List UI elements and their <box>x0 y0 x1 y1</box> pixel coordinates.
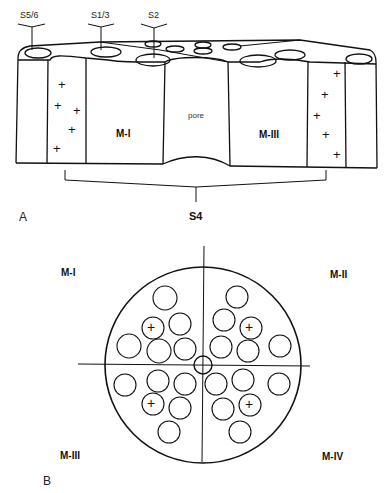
label-s2: S2 <box>148 11 159 20</box>
charge-plus: + <box>68 123 76 136</box>
charge-plus: + <box>313 109 321 122</box>
panel-b-label: B <box>43 475 51 487</box>
s13-pointer <box>88 24 114 50</box>
s56-right-ellipse <box>346 54 372 64</box>
charge-plus: + <box>147 396 155 410</box>
charge-plus: + <box>321 88 329 101</box>
charge-plus: + <box>333 67 341 80</box>
block-left-edge <box>16 58 18 163</box>
vertical-axis <box>202 246 204 462</box>
label-s56: S5/6 <box>20 11 39 20</box>
s56-left-ellipse <box>25 48 51 58</box>
s56-pointer <box>18 24 45 50</box>
charge-plus: + <box>322 128 330 141</box>
pore-label: pore <box>188 112 204 120</box>
charge-plus: + <box>147 320 155 334</box>
domain-label-m1: M-I <box>116 129 130 139</box>
charge-plus: + <box>73 104 81 117</box>
label-s13: S1/3 <box>91 11 110 20</box>
quadrant-label-m4: M-IV <box>322 452 343 462</box>
charge-plus: + <box>54 99 62 112</box>
charge-plus: + <box>58 78 66 91</box>
charge-plus: + <box>53 142 61 155</box>
block-right-edge <box>376 62 377 168</box>
label-s4: S4 <box>189 211 202 222</box>
s2-ellipse <box>136 54 170 66</box>
quadrant-label-m3: M-III <box>60 451 80 461</box>
charge-plus: + <box>333 148 341 161</box>
block-bottom-edge <box>16 157 377 168</box>
panel-a-label: A <box>19 211 27 223</box>
domain-label-m3: M-III <box>259 130 279 140</box>
s13-ellipse <box>91 47 121 57</box>
quadrant-label-m2: M-II <box>330 270 347 280</box>
channel-diagram <box>0 0 387 493</box>
quadrant-label-m1: M-I <box>61 268 75 278</box>
s4-bracket <box>65 170 326 202</box>
charge-plus: + <box>245 320 253 334</box>
charge-plus: + <box>245 397 253 411</box>
